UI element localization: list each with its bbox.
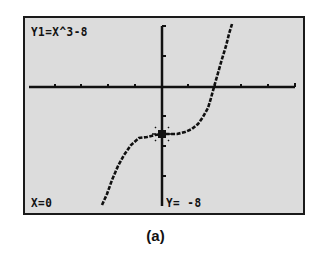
trace-cursor-icon xyxy=(152,124,172,144)
trace-x-value: X=0 xyxy=(31,196,52,210)
figure-caption: (a) xyxy=(0,227,311,244)
calculator-screen: Y1=X^3-8 X=0 Y= -8 xyxy=(23,16,305,215)
function-curve xyxy=(102,24,232,205)
equation-label: Y1=X^3-8 xyxy=(31,25,88,39)
graph-plot xyxy=(25,18,303,213)
trace-y-value: Y= -8 xyxy=(166,196,202,210)
